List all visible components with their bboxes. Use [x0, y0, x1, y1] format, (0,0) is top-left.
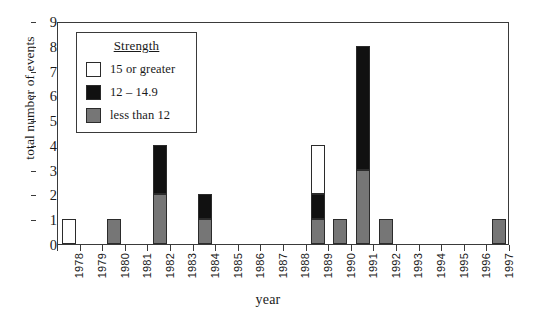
y-tick-mark-6	[31, 96, 36, 97]
legend-swatch	[86, 108, 101, 123]
bar-1984	[198, 194, 212, 244]
bar-segment-1982-less-than-12	[153, 194, 167, 244]
bar-segment-1991-less-than-12	[356, 170, 370, 244]
y-tick-label-0: 0	[41, 238, 57, 253]
x-tick-label-1982: 1982	[164, 253, 176, 278]
x-tick-mark	[441, 245, 442, 251]
bar-1980	[107, 219, 121, 244]
bar-segment-1984-12-14-9	[198, 194, 212, 219]
x-tick-label-1981: 1981	[141, 253, 153, 278]
x-tick-label-1995: 1995	[458, 253, 470, 278]
x-tick-mark	[170, 245, 171, 251]
x-tick-mark	[260, 245, 261, 251]
y-tick-mark-8	[31, 47, 36, 48]
y-tick-label-5: 5	[41, 114, 57, 129]
y-tick-mark-9	[31, 22, 36, 23]
legend-entry: 12 – 14.9	[77, 81, 196, 104]
x-tick-mark	[80, 245, 81, 251]
x-tick-label-1988: 1988	[299, 253, 311, 278]
bar-segment-1989-15-or-greater	[311, 145, 325, 195]
legend-entry: 15 or greater	[77, 58, 196, 81]
x-tick-label-1983: 1983	[186, 253, 198, 278]
x-tick-mark	[396, 245, 397, 251]
y-tick-label-3: 3	[41, 163, 57, 178]
legend-label: 12 – 14.9	[110, 85, 158, 100]
x-tick-label-1978: 1978	[73, 253, 85, 278]
y-tick-label-6: 6	[41, 89, 57, 104]
x-tick-label-1989: 1989	[322, 253, 334, 278]
bar-segment-1989-less-than-12	[311, 219, 325, 244]
legend-entries: 15 or greater12 – 14.9less than 12	[77, 58, 196, 127]
x-tick-mark	[306, 245, 307, 251]
y-tick-mark-1	[31, 220, 36, 221]
x-tick-mark	[328, 245, 329, 251]
x-tick-label-1994: 1994	[435, 253, 447, 278]
legend-title: Strength	[77, 38, 196, 54]
legend: Strength 15 or greater12 – 14.9less than…	[76, 32, 197, 133]
legend-label: 15 or greater	[110, 62, 175, 77]
bar-1992	[379, 219, 393, 244]
legend-swatch	[86, 62, 101, 77]
bar-1991	[356, 46, 370, 244]
x-tick-mark	[238, 245, 239, 251]
x-tick-mark	[283, 245, 284, 251]
x-tick-label-1997: 1997	[503, 253, 515, 278]
x-tick-label-1990: 1990	[345, 253, 357, 278]
x-tick-label-1979: 1979	[96, 253, 108, 278]
bar-1997	[492, 219, 506, 244]
x-tick-mark	[215, 245, 216, 251]
bar-segment-1984-less-than-12	[198, 219, 212, 244]
bar-segment-1982-12-14-9	[153, 145, 167, 195]
bar-1989	[311, 145, 325, 244]
bar-1990	[333, 219, 347, 244]
x-tick-label-1993: 1993	[412, 253, 424, 278]
bar-1982	[153, 145, 167, 244]
x-tick-mark	[125, 245, 126, 251]
chart-figure: total number of events 0123456789 Streng…	[0, 0, 536, 320]
legend-swatch	[86, 85, 101, 100]
x-tick-label-1996: 1996	[480, 253, 492, 278]
x-tick-mark	[351, 245, 352, 251]
x-tick-mark	[147, 245, 148, 251]
bar-segment-1989-12-14-9	[311, 194, 325, 219]
x-tick-mark	[193, 245, 194, 251]
bar-segment-1997-less-than-12	[492, 219, 506, 244]
y-tick-label-7: 7	[41, 64, 57, 79]
x-tick-mark	[464, 245, 465, 251]
y-tick-mark-3	[31, 171, 36, 172]
y-tick-label-9: 9	[41, 15, 57, 30]
x-tick-mark	[102, 245, 103, 251]
x-tick-mark	[509, 245, 510, 251]
y-tick-label-4: 4	[41, 139, 57, 154]
bar-segment-1990-less-than-12	[333, 219, 347, 244]
x-tick-mark	[373, 245, 374, 251]
x-tick-label-1992: 1992	[390, 253, 402, 278]
legend-entry: less than 12	[77, 104, 196, 127]
x-tick-label-1985: 1985	[232, 253, 244, 278]
bar-1978	[62, 219, 76, 244]
bar-segment-1991-12-14-9	[356, 46, 370, 170]
x-tick-mark	[486, 245, 487, 251]
x-tick-label-1980: 1980	[119, 253, 131, 278]
x-axis-title: year	[0, 292, 536, 308]
x-tick-mark	[419, 245, 420, 251]
y-tick-mark-2	[31, 195, 36, 196]
y-tick-mark-4	[31, 146, 36, 147]
x-tick-label-1987: 1987	[277, 253, 289, 278]
y-tick-mark-5	[31, 121, 36, 122]
legend-label: less than 12	[110, 108, 170, 123]
bar-segment-1980-less-than-12	[107, 219, 121, 244]
y-tick-label-2: 2	[41, 188, 57, 203]
x-tick-label-1986: 1986	[254, 253, 266, 278]
bar-segment-1992-less-than-12	[379, 219, 393, 244]
bar-segment-1978-15-or-greater	[62, 219, 76, 244]
y-tick-label-1: 1	[41, 213, 57, 228]
y-axis-ticks: 0123456789	[36, 0, 57, 320]
y-tick-label-8: 8	[41, 40, 57, 55]
x-tick-mark	[57, 245, 58, 251]
x-tick-label-1984: 1984	[209, 253, 221, 278]
x-tick-label-1991: 1991	[367, 253, 379, 278]
y-tick-mark-7	[31, 72, 36, 73]
